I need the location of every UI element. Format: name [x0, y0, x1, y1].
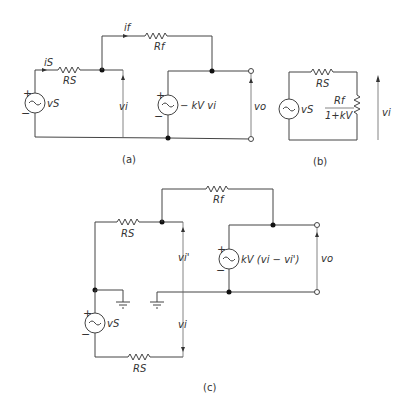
label-rf-numerator: Rf	[334, 95, 346, 106]
plus-sign: +	[83, 307, 92, 320]
minus-sign: −	[81, 328, 90, 341]
label-rf-denominator: 1+kV	[325, 110, 354, 121]
circuit-b: RS vS Rf 1+kV vi (b)	[279, 69, 391, 167]
label-vs: vS	[107, 318, 120, 329]
minus-sign: −	[154, 110, 163, 123]
caption-c: (c)	[203, 382, 216, 393]
plus-sign: +	[156, 89, 165, 102]
label-vs: vS	[47, 98, 60, 109]
label-rs: RS	[63, 75, 77, 86]
label-vo: vo	[254, 101, 266, 112]
label-vi: vi	[382, 107, 391, 118]
label-vo: vo	[321, 253, 333, 264]
plus-sign: +	[23, 87, 32, 100]
label-vi: vi	[119, 101, 128, 112]
minus-sign: −	[216, 264, 225, 277]
label-vi-prime: vi'	[178, 252, 189, 263]
label-rs: RS	[316, 78, 330, 89]
label-is: iS	[44, 57, 54, 68]
circuit-diagram: iS if RS Rf vS vi vo − kV vi + − + − (a)…	[0, 0, 397, 407]
circuit-a: iS if RS Rf vS vi vo − kV vi + − + − (a)	[21, 22, 266, 165]
label-rs-top: RS	[121, 228, 135, 239]
caption-a: (a)	[122, 154, 136, 165]
circuit-c: RS Rf vi' vi vo kV (vi − vi') vS RS + − …	[81, 186, 333, 393]
label-vi: vi	[178, 319, 187, 330]
minus-sign: −	[21, 107, 30, 120]
label-rf: Rf	[213, 194, 225, 205]
label-rs-bottom: RS	[133, 363, 147, 374]
label-dependent-source: − kV vi	[180, 100, 216, 111]
label-dependent-source: kV (vi − vi')	[241, 254, 300, 265]
label-if: if	[124, 22, 132, 33]
plus-sign: +	[217, 243, 226, 256]
caption-b: (b)	[313, 156, 327, 167]
label-rf: Rf	[154, 41, 166, 52]
label-vs: vS	[301, 104, 314, 115]
